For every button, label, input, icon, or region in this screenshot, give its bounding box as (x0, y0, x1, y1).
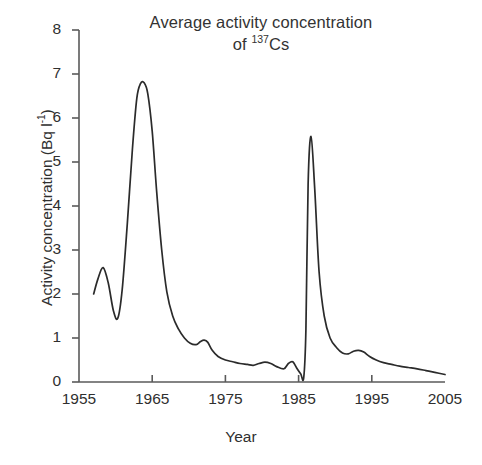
y-tick-label-2: 2 (33, 284, 61, 302)
data-line-cs137 (94, 82, 445, 381)
y-tick-label-6: 6 (33, 108, 61, 126)
x-tick-label-1985: 1985 (271, 390, 327, 408)
x-tick-label-1955: 1955 (51, 390, 107, 408)
y-tick-label-3: 3 (33, 240, 61, 258)
chart-figure: Average activity concentration of 137Cs … (0, 0, 482, 465)
x-tick-label-2005: 2005 (417, 390, 473, 408)
y-tick-label-8: 8 (33, 20, 61, 38)
x-tick-label-1975: 1975 (197, 390, 253, 408)
x-tick-label-1995: 1995 (344, 390, 400, 408)
y-tick-label-1: 1 (33, 328, 61, 346)
data-series-group (94, 82, 445, 381)
y-ticks-group (72, 30, 79, 382)
y-tick-label-4: 4 (33, 196, 61, 214)
y-tick-label-0: 0 (33, 372, 61, 390)
axes-group (79, 30, 445, 382)
y-tick-label-5: 5 (33, 152, 61, 170)
y-tick-label-7: 7 (33, 64, 61, 82)
x-ticks-group (152, 375, 372, 382)
x-tick-label-1965: 1965 (124, 390, 180, 408)
